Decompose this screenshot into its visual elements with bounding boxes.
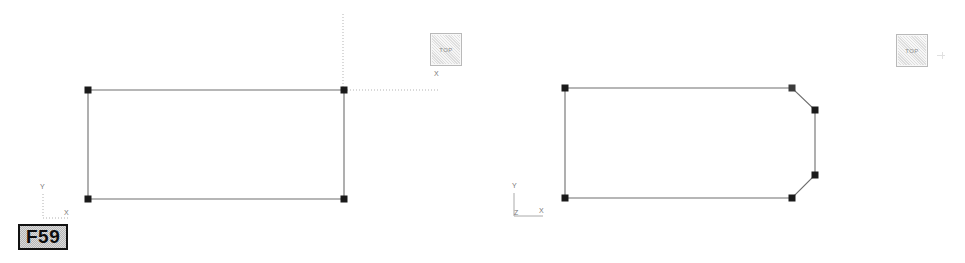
left-viewport-canvas[interactable] — [0, 0, 482, 263]
left-viewport[interactable]: Y X X TOP F59 — [0, 0, 482, 263]
view-cube-top-button[interactable]: TOP — [896, 34, 928, 67]
axis-indicator-right — [514, 193, 543, 216]
vertex-handle[interactable] — [85, 87, 92, 94]
vertex-handle[interactable] — [812, 172, 819, 179]
vertex-handle-group[interactable] — [85, 87, 348, 203]
axis-indicator-left — [43, 194, 68, 218]
vertex-handle-group[interactable] — [562, 85, 819, 202]
vertex-handle[interactable] — [812, 107, 819, 114]
right-viewport-canvas[interactable] — [483, 0, 965, 263]
frame-label-f59: F59 — [18, 224, 68, 250]
view-cube-top-label: TOP — [905, 48, 918, 54]
vertex-handle[interactable] — [341, 87, 348, 94]
vertex-handle[interactable] — [789, 195, 796, 202]
view-cube-top-label: TOP — [439, 47, 452, 53]
vertex-handle[interactable] — [562, 85, 569, 92]
vertex-handle[interactable] — [341, 196, 348, 203]
rectangle-profile[interactable] — [88, 90, 344, 199]
screenshot-stage: Y X X TOP F59 — [0, 0, 965, 263]
vertex-handle[interactable] — [562, 195, 569, 202]
vertex-handle[interactable] — [789, 85, 796, 92]
frame-label-f59-text: F59 — [26, 226, 60, 247]
right-viewport[interactable]: Y Z X TOP — [483, 0, 965, 263]
chamfered-profile[interactable] — [565, 88, 815, 198]
vertex-handle[interactable] — [85, 196, 92, 203]
view-cube-top-button[interactable]: TOP — [430, 33, 462, 66]
